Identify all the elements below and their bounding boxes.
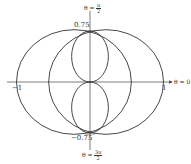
axis-label-theta-3pi-over-2: θ = 3π2	[82, 150, 102, 161]
denominator: 2	[97, 156, 100, 161]
polar-plot	[0, 0, 191, 164]
axis-label-theta-0: θ = 0	[174, 79, 190, 85]
tick-label-x-neg: −1	[12, 85, 22, 92]
denominator: 2	[97, 9, 100, 14]
fraction: π2	[96, 3, 100, 14]
tick-label-x-pos: 1	[162, 85, 166, 92]
tick-label-y-neg: −0.75	[71, 135, 92, 142]
theta-prefix: θ =	[84, 4, 96, 11]
fraction: 3π2	[94, 150, 101, 161]
axis-label-theta-pi-over-2: θ = π2	[84, 3, 101, 14]
tick-label-y-pos: 0.75	[74, 22, 90, 29]
theta-prefix: θ =	[82, 151, 94, 158]
